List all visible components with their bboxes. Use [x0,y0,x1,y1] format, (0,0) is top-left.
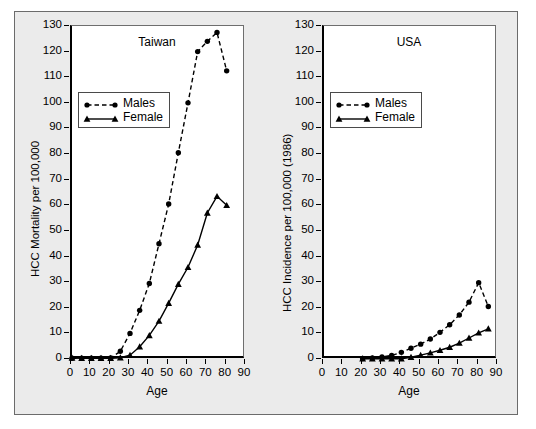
x-tick-mark-taiwan-30 [128,359,129,364]
y-tick-label-usa-0: 0 [284,352,314,362]
circle-marker-icon [83,97,119,109]
data-point-usa-males-80 [476,280,481,285]
x-tick-mark-taiwan-90 [244,359,245,364]
series-line-usa-males [363,283,489,359]
panel-title-taiwan: Taiwan [97,35,217,49]
x-tick-label-taiwan-90: 90 [232,366,256,378]
y-tick-mark-taiwan-120 [64,51,69,52]
legend-label-taiwan-female: Female [123,111,163,123]
figure-canvas: HCC Mortality per 100,000 01020304050607… [0,0,536,429]
plot-area-taiwan [70,25,244,358]
series-layer-taiwan [72,26,246,359]
data-point-usa-males-55 [428,336,433,341]
y-tick-label-taiwan-70: 70 [32,173,62,183]
y-tick-mark-taiwan-10 [64,332,69,333]
data-point-usa-males-70 [457,312,462,317]
y-tick-label-usa-110: 110 [284,70,314,80]
y-tick-mark-usa-80 [316,153,321,154]
y-tick-label-usa-100: 100 [284,96,314,106]
panel-usa: HCC Incidence per 100,000 (1986) 0102030… [267,12,519,416]
x-tick-mark-usa-60 [438,359,439,364]
x-tick-mark-usa-70 [457,359,458,364]
data-point-usa-female-70 [456,340,463,346]
y-tick-mark-usa-70 [316,179,321,180]
y-tick-label-taiwan-130: 130 [32,19,62,29]
y-tick-mark-taiwan-60 [64,204,69,205]
y-tick-label-usa-10: 10 [284,326,314,336]
y-tick-mark-taiwan-90 [64,127,69,128]
x-axis-title-taiwan: Age [70,384,244,398]
series-line-taiwan-males [72,32,227,358]
y-tick-mark-usa-0 [316,358,321,359]
y-tick-mark-usa-50 [316,230,321,231]
legend-label-taiwan-males: Males [123,97,155,109]
y-tick-mark-usa-30 [316,281,321,282]
data-point-usa-males-60 [437,330,442,335]
data-point-taiwan-males-50 [166,201,171,206]
data-point-taiwan-males-30 [127,331,132,336]
x-tick-mark-taiwan-80 [225,359,226,364]
data-point-usa-female-75 [466,335,473,341]
data-point-taiwan-female-55 [175,281,182,287]
y-tick-label-taiwan-80: 80 [32,147,62,157]
data-point-taiwan-males-25 [118,349,123,354]
y-tick-mark-taiwan-50 [64,230,69,231]
series-layer-usa [324,26,498,359]
data-point-usa-males-85 [486,304,491,309]
y-tick-label-usa-20: 20 [284,301,314,311]
y-tick-label-taiwan-90: 90 [32,121,62,131]
data-point-usa-female-85 [485,325,492,331]
y-tick-label-usa-90: 90 [284,121,314,131]
data-point-taiwan-males-55 [176,150,181,155]
data-point-taiwan-males-35 [137,308,142,313]
data-point-usa-males-50 [418,341,423,346]
legend-taiwan: MalesFemale [78,92,170,128]
y-tick-label-taiwan-60: 60 [32,198,62,208]
x-tick-mark-usa-0 [322,359,323,364]
legend-item-usa-female[interactable]: Female [335,110,415,124]
y-tick-mark-usa-10 [316,332,321,333]
data-point-usa-males-75 [466,299,471,304]
y-tick-label-taiwan-110: 110 [32,70,62,80]
data-point-taiwan-males-60 [185,100,190,105]
x-tick-mark-usa-50 [419,359,420,364]
data-point-taiwan-males-40 [147,281,152,286]
y-tick-mark-usa-60 [316,204,321,205]
panel-title-usa: USA [349,35,469,49]
y-tick-mark-taiwan-30 [64,281,69,282]
legend-item-taiwan-males[interactable]: Males [83,96,163,110]
y-tick-mark-usa-20 [316,307,321,308]
x-tick-mark-taiwan-40 [147,359,148,364]
legend-usa: MalesFemale [330,92,422,128]
legend-item-usa-males[interactable]: Males [335,96,415,110]
triangle-marker-icon [335,111,371,123]
legend-item-taiwan-female[interactable]: Female [83,110,163,124]
legend-label-usa-female: Female [375,111,415,123]
x-tick-mark-usa-90 [496,359,497,364]
y-tick-label-taiwan-30: 30 [32,275,62,285]
plot-area-usa [322,25,496,358]
x-tick-mark-taiwan-70 [205,359,206,364]
x-axis-title-usa: Age [322,384,496,398]
y-tick-mark-usa-90 [316,127,321,128]
figure-plate: HCC Mortality per 100,000 01020304050607… [14,11,518,415]
y-tick-label-usa-50: 50 [284,224,314,234]
y-tick-mark-usa-110 [316,76,321,77]
y-tick-label-taiwan-50: 50 [32,224,62,234]
x-tick-mark-taiwan-60 [186,359,187,364]
y-tick-mark-usa-40 [316,256,321,257]
data-point-taiwan-female-75 [214,193,221,199]
y-tick-label-usa-40: 40 [284,250,314,260]
y-tick-mark-taiwan-100 [64,102,69,103]
y-tick-label-taiwan-20: 20 [32,301,62,311]
y-tick-mark-taiwan-0 [64,358,69,359]
legend-label-usa-males: Males [375,97,407,109]
y-tick-label-usa-80: 80 [284,147,314,157]
panel-taiwan: HCC Mortality per 100,000 01020304050607… [15,12,267,416]
y-tick-label-taiwan-100: 100 [32,96,62,106]
data-point-taiwan-males-45 [156,241,161,246]
y-tick-label-usa-30: 30 [284,275,314,285]
x-tick-label-usa-90: 90 [484,366,508,378]
y-tick-label-taiwan-0: 0 [32,352,62,362]
y-tick-mark-usa-130 [316,25,321,26]
